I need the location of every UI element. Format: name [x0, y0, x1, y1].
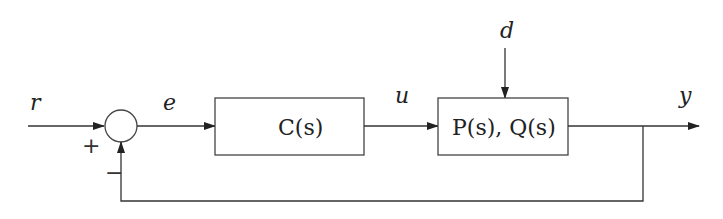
summing-junction [105, 110, 137, 142]
disturbance-label: d [500, 18, 514, 43]
control-label: u [395, 83, 409, 108]
output-label: y [678, 83, 692, 108]
plant-label: P(s), Q(s) [452, 115, 556, 140]
block-diagram: r + − e C(s) u d P(s), Q(s) y [0, 0, 723, 219]
plus-sign: + [82, 133, 100, 158]
controller-label: C(s) [278, 115, 323, 140]
reference-label: r [30, 90, 42, 115]
error-label: e [163, 90, 176, 115]
